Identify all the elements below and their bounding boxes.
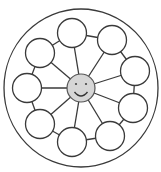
node-bottom (58, 128, 87, 157)
node-top-right (98, 26, 127, 55)
wheel-diagram (0, 0, 161, 172)
hub-circle (67, 74, 95, 102)
left-eye (75, 83, 77, 85)
right-eye (85, 83, 87, 85)
node-right-upper (121, 57, 150, 86)
node-bottom-left (26, 110, 55, 139)
node-left (13, 74, 42, 103)
node-top (58, 19, 87, 48)
node-upper-left (26, 39, 55, 68)
node-right-lower (119, 94, 148, 123)
node-bottom-right (96, 122, 125, 151)
hub-smiley-icon (67, 74, 95, 102)
